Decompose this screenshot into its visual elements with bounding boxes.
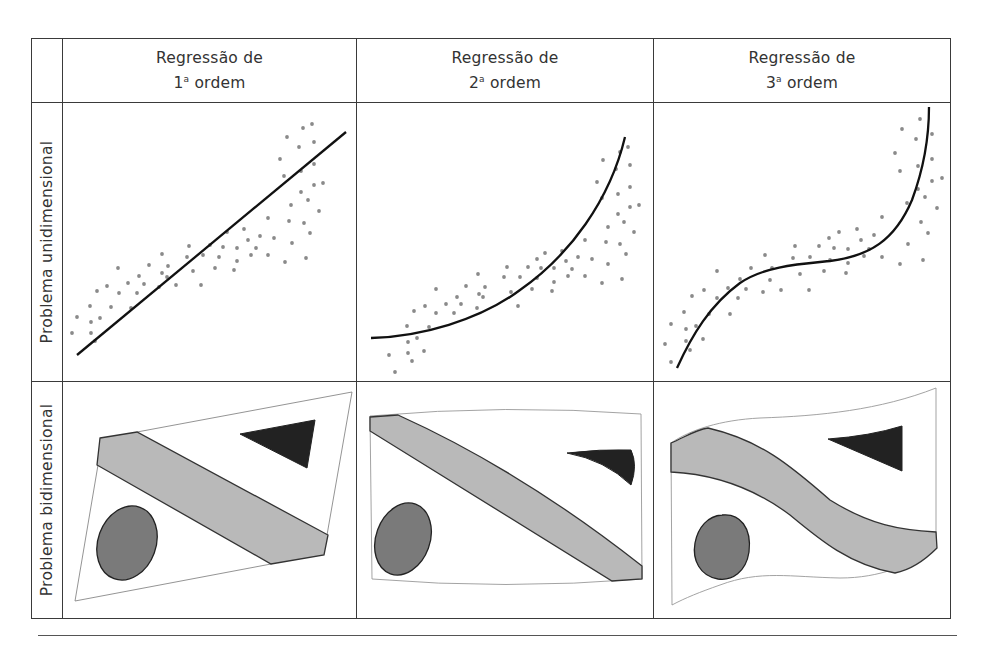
data-point — [105, 284, 109, 288]
data-point — [628, 205, 632, 209]
data-point — [387, 353, 391, 357]
data-point — [940, 176, 944, 180]
data-point — [930, 132, 934, 136]
data-point — [926, 231, 930, 235]
data-point — [455, 295, 459, 299]
data-point — [793, 244, 797, 248]
data-point — [604, 240, 608, 244]
data-point — [606, 262, 610, 266]
data-point — [199, 283, 203, 287]
data-point — [285, 135, 289, 139]
data-point — [669, 322, 673, 326]
data-point — [306, 198, 310, 202]
data-point — [855, 227, 859, 231]
data-point — [75, 315, 79, 319]
data-point — [923, 195, 927, 199]
data-point — [135, 291, 139, 295]
data-point — [663, 342, 667, 346]
data-point — [918, 117, 922, 121]
data-point — [235, 259, 239, 263]
data-point — [817, 244, 821, 248]
data-point — [552, 266, 556, 270]
data-point — [859, 238, 863, 242]
data-point — [832, 246, 836, 250]
data-point — [242, 227, 246, 231]
data-point — [632, 230, 636, 234]
data-point — [919, 220, 923, 224]
data-point — [601, 158, 605, 162]
data-point — [502, 275, 506, 279]
data-point — [299, 190, 303, 194]
data-point — [434, 311, 438, 315]
data-point — [600, 281, 604, 285]
data-point — [570, 267, 574, 271]
data-point — [415, 336, 419, 340]
data-point — [539, 266, 543, 270]
data-point — [289, 203, 293, 207]
data-point — [308, 231, 312, 235]
data-point — [761, 290, 765, 294]
data-point — [126, 281, 130, 285]
data-point — [583, 238, 587, 242]
data-point — [566, 274, 570, 278]
data-point — [768, 278, 772, 282]
data-point — [628, 185, 632, 189]
data-point — [301, 126, 305, 130]
data-point — [688, 348, 692, 352]
data-point — [321, 181, 325, 185]
data-point — [624, 252, 628, 256]
data-point — [837, 230, 841, 234]
data-point — [137, 274, 141, 278]
data-point — [483, 285, 487, 289]
data-point — [684, 339, 688, 343]
data-point — [618, 242, 622, 246]
data-point — [595, 180, 599, 184]
data-point — [898, 169, 902, 173]
data-point — [422, 349, 426, 353]
data-point — [464, 284, 468, 288]
data-point — [258, 234, 262, 238]
data-point — [254, 246, 258, 250]
data-point — [844, 271, 848, 275]
scatter-points-1st-order — [70, 122, 325, 343]
data-point — [509, 290, 513, 294]
data-point — [452, 311, 456, 315]
data-point — [475, 306, 479, 310]
cubic-fit-curve — [677, 107, 929, 368]
scatter-points-3rd-order — [663, 117, 944, 364]
data-point — [423, 304, 427, 308]
data-point — [302, 221, 306, 225]
data-point — [185, 255, 189, 259]
data-point — [694, 324, 698, 328]
dark-ellipse-shape — [694, 515, 749, 579]
data-point — [505, 265, 509, 269]
data-point — [142, 282, 146, 286]
data-point — [232, 268, 236, 272]
data-point — [410, 359, 414, 363]
data-point — [530, 287, 534, 291]
data-point — [637, 203, 641, 207]
data-point — [526, 265, 530, 269]
data-point — [862, 254, 866, 258]
data-point — [900, 127, 904, 131]
data-point — [89, 320, 93, 324]
data-point — [476, 272, 480, 276]
data-point — [590, 257, 594, 261]
data-point — [477, 292, 481, 296]
data-point — [266, 216, 270, 220]
data-point — [249, 253, 253, 257]
data-point — [702, 288, 706, 292]
data-point — [287, 219, 291, 223]
data-point — [310, 122, 314, 126]
data-point — [916, 164, 920, 168]
data-point — [898, 262, 902, 266]
data-point — [827, 236, 831, 240]
data-point — [620, 277, 624, 281]
data-point — [846, 247, 850, 251]
data-point — [459, 302, 463, 306]
data-point — [682, 310, 686, 314]
bidimensional-linear-warp — [75, 392, 352, 601]
data-point — [117, 291, 121, 295]
data-point — [744, 287, 748, 291]
data-point — [906, 242, 910, 246]
